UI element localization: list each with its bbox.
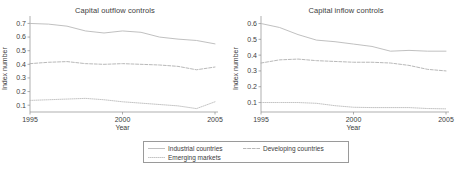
svg-text:0.7: 0.7: [16, 20, 26, 27]
svg-text:0.1: 0.1: [16, 102, 26, 109]
svg-text:0.5: 0.5: [247, 36, 257, 43]
plot-area-inflow: 0.10.20.30.40.50.6199520002005: [231, 0, 461, 136]
chart-panel-outflow: Capital outflow controls Index number 0.…: [0, 0, 230, 136]
svg-text:0.4: 0.4: [16, 61, 26, 68]
svg-text:2000: 2000: [346, 116, 362, 123]
legend-item-industrial-countries: Industrial countries: [148, 144, 243, 153]
svg-text:0.2: 0.2: [16, 88, 26, 95]
plot-area-outflow: 0.10.20.30.40.50.60.7199520002005: [0, 0, 230, 136]
svg-text:1995: 1995: [253, 116, 269, 123]
legend-swatch-developing: [243, 146, 260, 151]
chart-panel-inflow: Capital inflow controls Index number 0.1…: [231, 0, 461, 136]
chart-panels: Capital outflow controls Index number 0.…: [0, 0, 461, 136]
svg-text:0.4: 0.4: [247, 52, 257, 59]
legend-swatch-emerging: [148, 155, 165, 160]
svg-text:2000: 2000: [115, 116, 131, 123]
svg-text:1995: 1995: [22, 116, 38, 123]
svg-text:0.6: 0.6: [247, 20, 257, 27]
svg-text:0.6: 0.6: [16, 33, 26, 40]
legend-item-emerging-markets: Emerging markets: [148, 153, 243, 162]
svg-text:2005: 2005: [438, 116, 454, 123]
svg-text:0.1: 0.1: [247, 99, 257, 106]
legend-swatch-industrial: [148, 146, 165, 151]
legend-label: Emerging markets: [168, 153, 221, 162]
legend-label: Developing countries: [263, 144, 324, 153]
svg-text:0.2: 0.2: [247, 83, 257, 90]
x-axis-label-outflow: Year: [30, 124, 215, 131]
legend-item-developing-countries: Developing countries: [243, 144, 346, 153]
figure-capital-controls: Capital outflow controls Index number 0.…: [0, 0, 461, 172]
legend-label: Industrial countries: [168, 144, 223, 153]
svg-text:0.3: 0.3: [247, 67, 257, 74]
chart-legend: Industrial countriesDeveloping countries…: [143, 141, 349, 163]
x-axis-label-inflow: Year: [261, 124, 446, 131]
legend-entries: Industrial countriesDeveloping countries…: [148, 144, 346, 162]
svg-text:0.3: 0.3: [16, 74, 26, 81]
svg-text:2005: 2005: [207, 116, 223, 123]
svg-text:0.5: 0.5: [16, 47, 26, 54]
